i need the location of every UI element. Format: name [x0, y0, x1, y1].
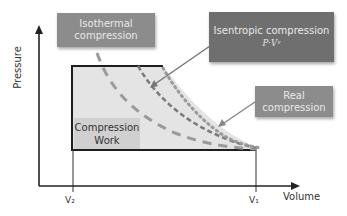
isentropic-callout: Isentropic compression P·Vᵞ [209, 12, 334, 62]
work-line1: Compression [74, 121, 140, 134]
x-tick-v1: V₁ [249, 195, 259, 205]
real-compression-callout: Real compression [255, 86, 333, 117]
real-callout-line2: compression [262, 102, 325, 114]
x-axis-label: Volume [283, 191, 320, 202]
isentropic-formula: P·Vᵞ [263, 37, 281, 49]
y-axis-label: Pressure [12, 43, 23, 93]
y-axis-arrow-icon [35, 25, 43, 34]
work-line2: Work [74, 134, 140, 147]
compression-work-label: Compression Work [74, 118, 140, 149]
x-axis-arrow-icon [291, 182, 300, 190]
real-callout-line1: Real [283, 90, 305, 102]
isentropic-callout-line1: Isentropic compression [214, 25, 330, 37]
isothermal-callout-line1: Isothermal [79, 18, 132, 30]
isothermal-callout: Isothermal compression [57, 13, 155, 47]
x-tick-v2: V₂ [65, 195, 75, 205]
real-pointer [221, 102, 255, 125]
isothermal-callout-line2: compression [74, 30, 137, 42]
